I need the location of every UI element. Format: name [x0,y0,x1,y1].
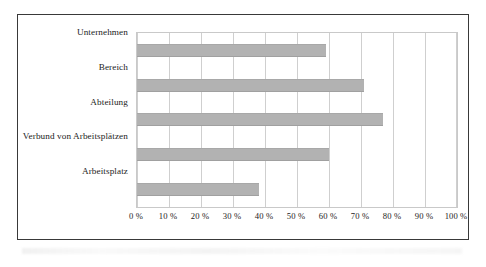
bar-row [137,103,457,138]
figure-frame: Unternehmen Bereich Abteilung Verbund vo… [17,14,469,240]
bar-row [137,33,457,68]
category-label: Bereich [99,62,128,72]
plot-area [136,32,458,208]
bar-row [137,68,457,103]
bar [137,148,329,161]
scan-artifact [22,248,462,254]
x-tick-label: 60 % [319,211,337,221]
x-tick-label: 50 % [287,211,305,221]
bar-row [137,172,457,207]
category-label: Arbeitsplatz [82,166,128,176]
category-axis: Unternehmen Bereich Abteilung Verbund vo… [18,15,136,189]
bar [137,113,383,126]
category-label: Abteilung [90,97,128,107]
bar [137,79,364,92]
x-tick-label: 10 % [159,211,177,221]
x-tick-label: 0 % [129,211,143,221]
bar [137,183,259,196]
bar [137,44,326,57]
x-tick-label: 40 % [255,211,273,221]
x-tick-label: 20 % [191,211,209,221]
x-tick-label: 30 % [223,211,241,221]
bar-chart: Unternehmen Bereich Abteilung Verbund vo… [18,15,470,241]
x-tick-label: 90 % [415,211,433,221]
category-label: Unternehmen [77,27,128,37]
x-tick-label: 80 % [383,211,401,221]
bar-row [137,137,457,172]
x-tick-label: 100 % [445,211,468,221]
x-tick-label: 70 % [351,211,369,221]
category-label: Verbund von Arbeitsplätzen [23,131,128,141]
